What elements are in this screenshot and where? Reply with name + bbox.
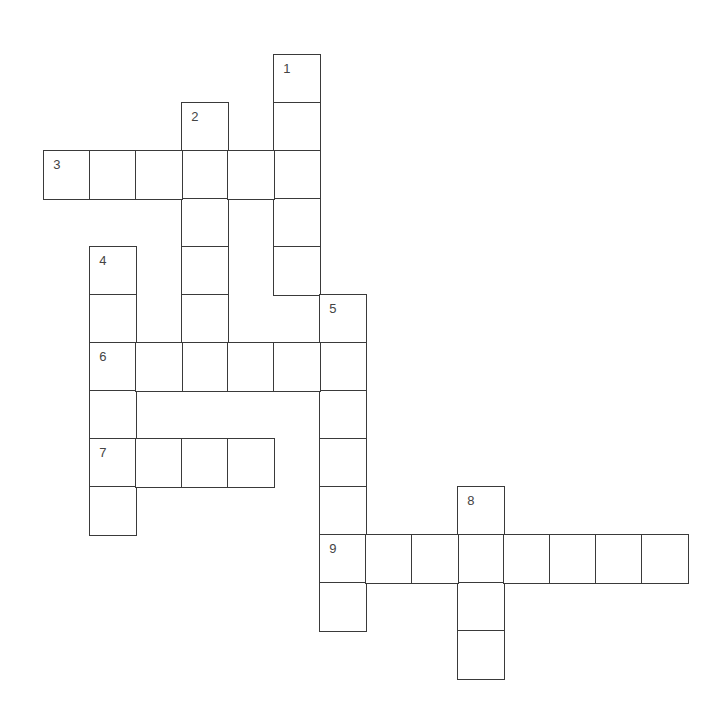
crossword-cell[interactable] [89,150,137,200]
crossword-cell[interactable] [89,390,137,440]
clue-number: 8 [467,494,474,507]
crossword-cell[interactable] [227,150,275,200]
clue-number: 2 [191,110,198,123]
crossword-cell[interactable]: 9 [319,534,367,584]
crossword-cell[interactable] [181,438,229,488]
crossword-cell[interactable] [181,342,229,392]
crossword-cell[interactable] [319,486,367,536]
crossword-cell[interactable] [135,342,183,392]
crossword-cell[interactable] [319,390,367,440]
crossword-cell[interactable] [181,198,229,248]
crossword-cell[interactable]: 5 [319,294,367,344]
crossword-cell[interactable] [549,534,597,584]
crossword-cell[interactable] [457,534,505,584]
crossword-cell[interactable] [411,534,459,584]
clue-number: 5 [329,302,336,315]
crossword-cell[interactable] [181,294,229,344]
crossword-cell[interactable]: 8 [457,486,505,536]
crossword-cell[interactable] [89,294,137,344]
clue-number: 9 [329,542,336,555]
crossword-cell[interactable] [273,150,321,200]
crossword-cell[interactable] [89,486,137,536]
crossword-cell[interactable] [227,438,275,488]
crossword-grid: 123467598 [0,0,725,712]
crossword-cell[interactable]: 1 [273,54,321,104]
crossword-cell[interactable] [273,246,321,296]
crossword-cell[interactable] [181,246,229,296]
crossword-cell[interactable] [365,534,413,584]
crossword-cell[interactable] [595,534,643,584]
crossword-cell[interactable] [273,198,321,248]
crossword-cell[interactable]: 3 [43,150,91,200]
crossword-cell[interactable] [319,342,367,392]
crossword-cell[interactable] [457,582,505,632]
crossword-cell[interactable] [273,342,321,392]
crossword-cell[interactable]: 4 [89,246,137,296]
crossword-cell[interactable]: 7 [89,438,137,488]
clue-number: 7 [99,446,106,459]
clue-number: 1 [283,62,290,75]
clue-number: 6 [99,350,106,363]
crossword-cell[interactable] [181,150,229,200]
crossword-cell[interactable]: 2 [181,102,229,152]
clue-number: 3 [53,158,60,171]
crossword-cell[interactable] [457,630,505,680]
crossword-cell[interactable] [503,534,551,584]
clue-number: 4 [99,254,106,267]
crossword-cell[interactable] [273,102,321,152]
crossword-cell[interactable] [135,150,183,200]
crossword-cell[interactable] [227,342,275,392]
crossword-cell[interactable] [319,582,367,632]
crossword-cell[interactable] [135,438,183,488]
crossword-cell[interactable] [641,534,689,584]
crossword-cell[interactable]: 6 [89,342,137,392]
crossword-cell[interactable] [319,438,367,488]
